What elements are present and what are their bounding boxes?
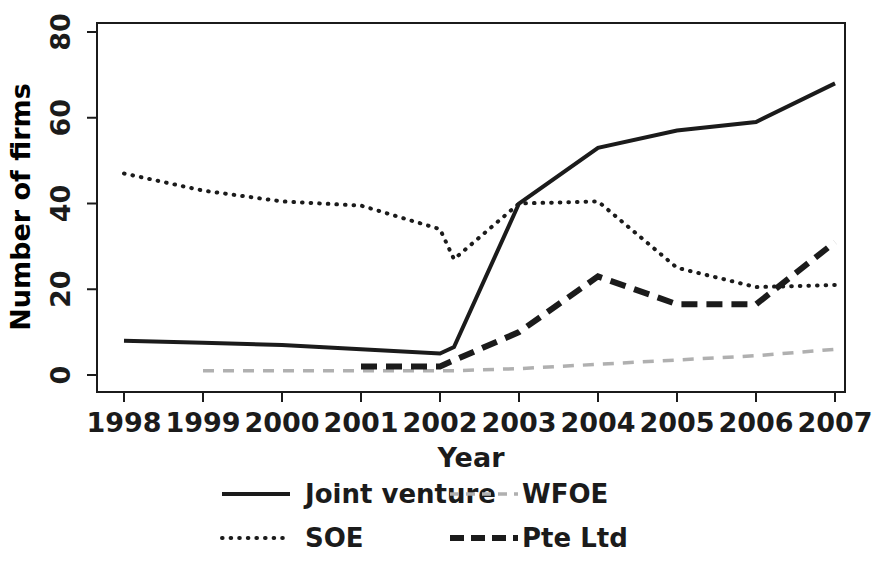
x-tick-label-2007: 2007 (797, 407, 872, 438)
y-tick-label-60: 60 (45, 99, 76, 137)
y-tick-label-40: 40 (45, 185, 76, 223)
y-tick-label-20: 20 (45, 270, 76, 308)
y-tick-label-0: 0 (45, 366, 76, 385)
x-axis-tick-labels: 1998 1999 2000 2001 2002 2003 2004 2005 … (86, 407, 872, 438)
series-line-joint-venture (124, 83, 835, 353)
legend-label-soe: SOE (305, 523, 364, 553)
data-series-layer (124, 83, 835, 370)
x-tick-label-2005: 2005 (639, 407, 714, 438)
y-axis-tick-labels: 80 60 40 20 0 (45, 13, 76, 384)
x-tick-label-2006: 2006 (718, 407, 793, 438)
y-axis-ticks (87, 32, 97, 375)
x-tick-label-2000: 2000 (244, 407, 319, 438)
x-tick-label-1998: 1998 (86, 407, 161, 438)
x-tick-label-1999: 1999 (165, 407, 240, 438)
y-tick-label-80: 80 (45, 13, 76, 51)
line-chart: 80 60 40 20 0 Number of firms 1998 1999 … (0, 0, 887, 562)
x-axis-ticks (124, 392, 835, 402)
legend-label-pte-ltd: Pte Ltd (522, 523, 628, 553)
x-axis-title: Year (437, 442, 506, 473)
legend-label-wfoe: WFOE (522, 479, 608, 509)
series-line-soe (124, 174, 835, 288)
chart-legend: Joint venture WFOE SOE Pte Ltd (222, 479, 628, 553)
x-tick-label-2003: 2003 (481, 407, 556, 438)
x-tick-label-2002: 2002 (402, 407, 477, 438)
chart-container: 80 60 40 20 0 Number of firms 1998 1999 … (0, 0, 887, 562)
x-tick-label-2001: 2001 (323, 407, 398, 438)
y-axis-title: Number of firms (5, 83, 36, 331)
series-line-pte-ltd (361, 242, 835, 366)
series-line-wfoe (203, 349, 835, 370)
plot-frame (97, 23, 845, 392)
x-tick-label-2004: 2004 (560, 407, 635, 438)
